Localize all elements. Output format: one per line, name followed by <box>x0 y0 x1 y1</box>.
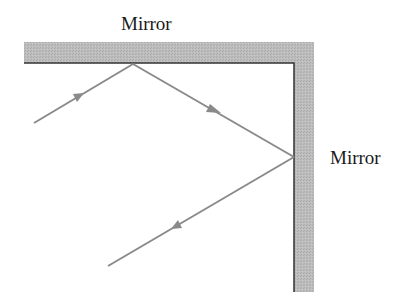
top-mirror <box>24 42 314 63</box>
arrow-icon <box>206 104 221 113</box>
mirror-surface-edge <box>24 63 294 292</box>
right-mirror-label: Mirror <box>330 147 381 169</box>
right-mirror <box>294 42 314 292</box>
arrow-icon <box>73 93 84 102</box>
light-ray <box>34 64 294 266</box>
top-mirror-label: Mirror <box>121 13 172 35</box>
